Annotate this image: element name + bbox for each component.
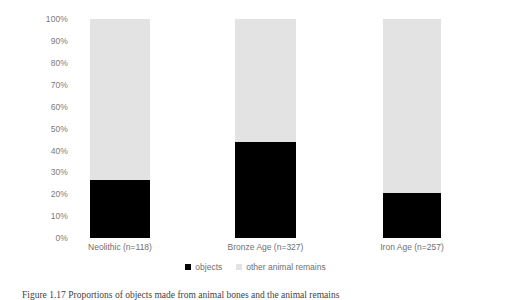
bar-segment-objects[interactable] (90, 180, 150, 238)
x-axis-label-bronze-age: Bronze Age (n=327) (215, 242, 316, 253)
legend-item-objects[interactable]: objects (185, 262, 222, 272)
bar-bronze-age[interactable] (235, 19, 296, 238)
bar-neolithic[interactable] (90, 19, 150, 238)
legend-swatch-other-animal-remains (236, 264, 242, 270)
legend-label-objects: objects (195, 262, 222, 272)
y-axis-tick-90: 90% (24, 36, 68, 46)
legend-label-other-animal-remains: other animal remains (246, 262, 325, 272)
y-axis-tick-20: 20% (24, 189, 68, 199)
y-axis-tick-100: 100% (24, 14, 68, 24)
bar-segment-objects[interactable] (235, 142, 296, 238)
y-axis-tick-60: 60% (24, 102, 68, 112)
x-axis-label-iron-age: Iron Age (n=257) (362, 242, 462, 253)
chart-legend: objects other animal remains (0, 262, 511, 272)
figure-caption: Figure 1.17 Proportions of objects made … (22, 289, 492, 300)
y-axis-tick-80: 80% (24, 58, 68, 68)
legend-item-other-animal-remains[interactable]: other animal remains (236, 262, 325, 272)
bar-iron-age[interactable] (383, 19, 441, 238)
figure-container: 100% 90% 80% 70% 60% 50% 40% 30% 20% 10%… (0, 0, 511, 300)
bar-segment-other-animal-remains[interactable] (383, 19, 441, 193)
y-axis-tick-70: 70% (24, 80, 68, 90)
chart-plot-area: 100% 90% 80% 70% 60% 50% 40% 30% 20% 10%… (0, 0, 511, 256)
y-axis-tick-10: 10% (24, 211, 68, 221)
y-axis-tick-0: 0% (24, 233, 68, 243)
y-axis-tick-30: 30% (24, 167, 68, 177)
bar-segment-other-animal-remains[interactable] (235, 19, 296, 142)
x-axis-label-neolithic: Neolithic (n=118) (70, 242, 170, 253)
y-axis-tick-40: 40% (24, 146, 68, 156)
bar-segment-objects[interactable] (383, 193, 441, 238)
bar-segment-other-animal-remains[interactable] (90, 19, 150, 180)
legend-swatch-objects (185, 264, 191, 270)
y-axis-tick-50: 50% (24, 124, 68, 134)
